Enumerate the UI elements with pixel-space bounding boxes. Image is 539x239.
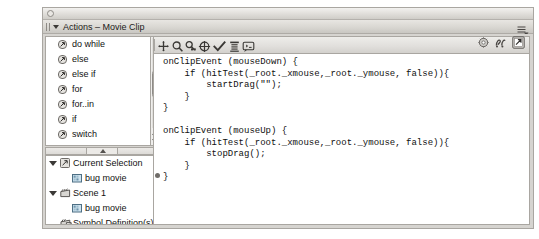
auto-format-button[interactable] [228, 39, 241, 52]
tree-item[interactable]: bug movie [46, 201, 160, 216]
action-list-item[interactable]: switch [46, 127, 150, 142]
script-navigator-tree[interactable]: Current Selectionbug movieScene 1bug mov… [45, 155, 161, 225]
action-item-icon [58, 115, 67, 124]
action-item-icon [58, 100, 67, 109]
tree-item-label: bug movie [46, 171, 160, 186]
action-list-item-label: while [46, 142, 150, 146]
window-titlebar [43, 8, 533, 20]
tree-item[interactable]: bug movie [46, 171, 160, 186]
add-statement-button[interactable] [157, 39, 170, 52]
toolbar-separator [154, 39, 155, 51]
action-item-icon [58, 55, 67, 64]
collapse-arrow-icon[interactable] [53, 25, 59, 29]
code-column: onClipEvent (mouseDown) { if (hitTest(_r… [153, 36, 530, 225]
find-button[interactable] [171, 39, 184, 52]
symbol-definitions-icon [60, 218, 72, 225]
action-list-item[interactable]: if [46, 112, 150, 127]
action-item-icon [58, 40, 67, 49]
actions-panel-screenshot: Actions – Movie Clip do whileelseelse if… [0, 0, 539, 239]
view-options-button[interactable] [494, 35, 507, 48]
actions-window: Actions – Movie Clip do whileelseelse if… [42, 7, 534, 229]
tree-item[interactable]: Symbol Definition(s) [46, 216, 160, 225]
reference-button[interactable] [477, 35, 490, 48]
panel-title-label: Actions – Movie Clip [63, 21, 145, 33]
script-code[interactable]: onClipEvent (mouseDown) { if (hitTest(_r… [163, 57, 527, 184]
panel-splitter[interactable] [45, 147, 161, 155]
insert-target-path-button[interactable] [198, 39, 211, 52]
find-replace-button[interactable] [184, 39, 197, 52]
tree-item[interactable]: Scene 1 [46, 186, 160, 201]
actions-toolbox-list[interactable]: do whileelseelse ifforfor..inifswitchwhi… [45, 36, 150, 146]
action-list-item[interactable]: for [46, 82, 150, 97]
code-editor-area[interactable]: onClipEvent (mouseDown) { if (hitTest(_r… [153, 53, 530, 225]
pin-script-button[interactable] [512, 35, 525, 48]
tree-twisty-expanded-icon[interactable] [49, 191, 57, 196]
action-item-icon [58, 130, 67, 139]
action-list-item[interactable]: while [46, 142, 150, 146]
tree-item[interactable]: Current Selection [46, 156, 160, 171]
code-toolbar[interactable] [153, 36, 530, 53]
show-code-hint-button[interactable] [242, 39, 255, 52]
splitter-handle-icon[interactable] [86, 148, 118, 154]
action-list-item[interactable]: else [46, 52, 150, 67]
grip-icon [46, 23, 50, 31]
line-marker-dot [155, 173, 160, 178]
action-item-icon [58, 70, 67, 79]
editor-gutter [154, 54, 163, 224]
panel-titlebar[interactable]: Actions – Movie Clip [43, 20, 533, 34]
panel-menu-icon[interactable] [517, 22, 529, 32]
action-item-icon [58, 85, 67, 94]
action-list-item[interactable]: for..in [46, 97, 150, 112]
left-column: do whileelseelse ifforfor..inifswitchwhi… [45, 36, 150, 225]
action-list-item[interactable]: else if [46, 67, 150, 82]
tree-twisty-expanded-icon[interactable] [49, 161, 57, 166]
action-item-icon [58, 145, 67, 146]
panel-body: do whileelseelse ifforfor..inifswitchwhi… [43, 34, 533, 228]
action-list-item[interactable]: do while [46, 37, 150, 52]
close-button[interactable] [47, 10, 54, 17]
check-syntax-button[interactable] [213, 39, 226, 52]
tree-item-label: bug movie [46, 201, 160, 216]
